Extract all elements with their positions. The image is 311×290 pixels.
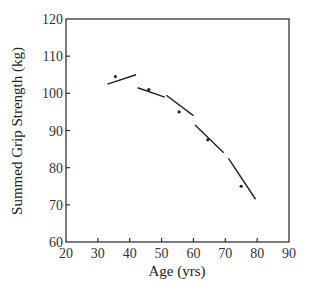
fit-segment — [138, 88, 165, 97]
data-point — [206, 138, 209, 141]
data-point — [114, 75, 117, 78]
x-tick-label: 80 — [250, 246, 264, 261]
y-axis-title: Summed Grip Strength (kg) — [9, 47, 26, 215]
y-tick-label: 110 — [43, 49, 63, 64]
fit-segment — [107, 75, 136, 84]
y-tick-label: 60 — [49, 235, 63, 250]
grip-strength-chart: 2030405060708090 60708090100110120 Age (… — [0, 0, 311, 290]
y-tick-label: 70 — [49, 198, 63, 213]
x-tick-label: 90 — [282, 246, 296, 261]
data-point — [240, 185, 243, 188]
data-points — [114, 75, 243, 188]
y-tick-label: 100 — [42, 86, 63, 101]
plot-frame — [66, 19, 289, 242]
y-tick-label: 120 — [42, 12, 63, 27]
x-tick-label: 70 — [218, 246, 232, 261]
data-point — [177, 110, 180, 113]
x-axis-title: Age (yrs) — [148, 263, 205, 280]
x-tick-label: 40 — [123, 246, 137, 261]
fit-segment — [228, 158, 255, 199]
data-point — [147, 88, 150, 91]
y-tick-label: 90 — [49, 124, 63, 139]
fit-segment — [195, 125, 224, 153]
x-tick-label: 30 — [91, 246, 105, 261]
x-tick-label: 60 — [186, 246, 200, 261]
fit-segments — [107, 75, 255, 200]
y-tick-label: 80 — [49, 161, 63, 176]
x-tick-label: 50 — [155, 246, 169, 261]
